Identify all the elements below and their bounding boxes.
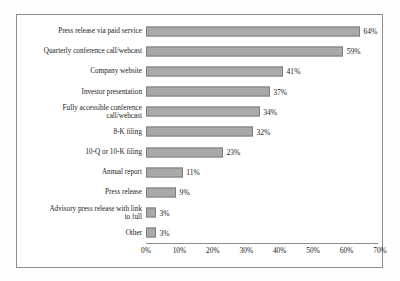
- bar: [146, 87, 270, 97]
- bar-container: 3%: [146, 207, 378, 218]
- bar: [146, 46, 343, 56]
- x-axis-tick: 30%: [240, 246, 254, 255]
- bar-value-label: 3%: [160, 228, 170, 237]
- bar-container: 9%: [146, 187, 378, 198]
- x-axis-line: [146, 243, 378, 244]
- bar: [146, 107, 260, 117]
- bar-container: 34%: [146, 106, 378, 117]
- bar-value-label: 37%: [273, 87, 287, 96]
- x-axis-tick: 70%: [373, 246, 387, 255]
- category-label: Investor presentation: [17, 87, 142, 95]
- x-axis-tick: 60%: [340, 246, 354, 255]
- bar-container: 11%: [146, 167, 378, 178]
- bar-row: Quarterly conference call/webcast 59%: [17, 42, 382, 61]
- bar-row: 8-K filing 32%: [17, 122, 382, 141]
- bar-value-label: 9%: [180, 188, 190, 197]
- category-label: Press release: [17, 188, 142, 196]
- bar-value-label: 64%: [363, 27, 377, 36]
- x-axis-tick: 20%: [206, 246, 220, 255]
- bar-value-label: 11%: [186, 168, 200, 177]
- bar-container: 37%: [146, 86, 378, 97]
- bar: [146, 26, 360, 36]
- bar: [146, 66, 283, 76]
- x-axis-tick: 40%: [273, 246, 287, 255]
- bar-value-label: 23%: [226, 148, 240, 157]
- category-label: Other: [17, 229, 142, 237]
- bar: [146, 187, 176, 197]
- bar-container: 41%: [146, 66, 378, 77]
- category-label: 10-Q or 10-K filing: [17, 148, 142, 156]
- bar-row: Fully accessible conference call/webcast…: [17, 102, 382, 121]
- bar-value-label: 34%: [263, 107, 277, 116]
- bar-container: 64%: [146, 26, 378, 37]
- bar-row: Press release 9%: [17, 183, 382, 202]
- bar-container: 3%: [146, 227, 378, 238]
- bar-value-label: 3%: [160, 208, 170, 217]
- bar-row: Press release via paid service 64%: [17, 22, 382, 41]
- category-label: Advisory press release with link to full: [17, 204, 142, 221]
- category-label: Annual report: [17, 168, 142, 176]
- category-label: Press release via paid service: [17, 27, 142, 35]
- bar: [146, 228, 156, 238]
- chart-frame: Press release via paid service 64% Quart…: [16, 14, 383, 268]
- category-label: Fully accessible conference call/webcast: [17, 103, 142, 120]
- category-label: Quarterly conference call/webcast: [17, 47, 142, 55]
- bar-row: Advisory press release with link to full…: [17, 203, 382, 222]
- bar-container: 59%: [146, 46, 378, 57]
- category-label: Company website: [17, 67, 142, 75]
- chart-screenshot: Press release via paid service 64% Quart…: [0, 0, 400, 281]
- bar-container: 23%: [146, 147, 378, 158]
- bar-row: Investor presentation 37%: [17, 82, 382, 101]
- bar-value-label: 59%: [347, 47, 361, 56]
- bar-row: Annual report 11%: [17, 163, 382, 182]
- x-axis-tick: 10%: [173, 246, 187, 255]
- x-axis-tick: 50%: [306, 246, 320, 255]
- bar-rows: Press release via paid service 64% Quart…: [17, 21, 382, 243]
- bar: [146, 147, 223, 157]
- bar: [146, 167, 183, 177]
- bar: [146, 127, 253, 137]
- x-axis-tick: 0%: [141, 246, 151, 255]
- bar: [146, 208, 156, 218]
- bar-row: Other 3%: [17, 223, 382, 242]
- bar-value-label: 32%: [256, 127, 270, 136]
- bar-container: 32%: [146, 126, 378, 137]
- x-axis-tick-labels: 0%10%20%30%40%50%60%70%: [146, 246, 378, 260]
- bar-row: 10-Q or 10-K filing 23%: [17, 143, 382, 162]
- bar-row: Company website 41%: [17, 62, 382, 81]
- bar-value-label: 41%: [287, 67, 301, 76]
- category-label: 8-K filing: [17, 128, 142, 136]
